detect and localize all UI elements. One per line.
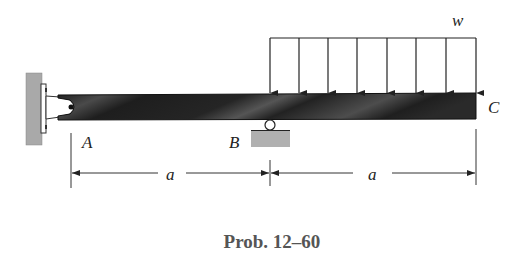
wall [26,73,42,145]
label-a: A [81,133,93,152]
beam [58,93,476,120]
label-c: C [488,98,500,117]
figure-caption: Prob. 12–60 [224,231,321,252]
distributed-load [270,38,476,93]
label-b: B [229,133,240,152]
span-label-ab: a [166,165,175,184]
pin-a [69,105,74,110]
span-label-bc: a [368,165,377,184]
roller-b [265,120,275,130]
load-label-w: w [452,11,464,30]
beam-diagram: w A B C a a Prob. 12–60 [0,0,523,253]
ground-b [251,131,290,147]
